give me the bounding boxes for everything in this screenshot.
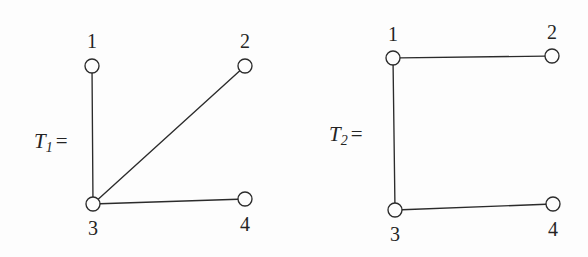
- graph-vertex-T2-4: [546, 197, 560, 211]
- edges-layer: [92, 56, 546, 210]
- graph-vertex-T2-1: [386, 51, 400, 65]
- vertex-label-T2-4: 4: [540, 219, 566, 239]
- graph-vertex-T1-1: [85, 59, 99, 73]
- vertex-label-T2-3: 3: [382, 224, 408, 244]
- vertex-label-T1-4: 4: [232, 214, 258, 234]
- vertex-label-T1-2: 2: [232, 31, 258, 51]
- graph-edge-T2-1-2: [400, 56, 545, 58]
- graph-vertex-T1-4: [238, 192, 252, 206]
- tree-name-equals-T2: =: [349, 122, 363, 146]
- graph-vertex-T1-3: [86, 197, 100, 211]
- graph-edge-T1-3-4: [100, 199, 238, 204]
- tree-name-equals-T1: =: [54, 129, 68, 153]
- tree-name-symbol-T2: T: [329, 122, 341, 146]
- graph-vertex-T2-3: [388, 203, 402, 217]
- graph-edge-T1-1-3: [92, 73, 93, 197]
- vertex-label-T2-1: 1: [380, 24, 406, 44]
- graph-edge-T2-1-3: [393, 65, 395, 203]
- tree-name-symbol-T1: T: [34, 129, 46, 153]
- vertex-label-T2-2: 2: [539, 22, 565, 42]
- vertex-label-T1-1: 1: [79, 31, 105, 51]
- vertices-layer: [85, 49, 560, 217]
- graph-edge-T1-2-3: [98, 71, 240, 200]
- vertex-label-T1-3: 3: [80, 218, 106, 238]
- graph-vertex-T1-2: [238, 59, 252, 73]
- tree-name-subscript-T1: 1: [46, 140, 54, 155]
- tree-name-label-T2: T2=: [329, 124, 363, 148]
- tree-diagram-figure: 1234T1=1234T2=: [0, 0, 588, 257]
- graph-edge-T2-3-4: [402, 204, 546, 209]
- graph-vertex-T2-2: [545, 49, 559, 63]
- tree-name-subscript-T2: 2: [341, 133, 349, 148]
- tree-name-label-T1: T1=: [34, 131, 68, 155]
